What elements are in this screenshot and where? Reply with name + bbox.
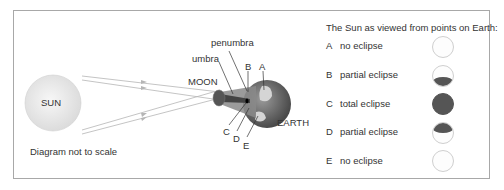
umbra-label: umbra bbox=[192, 54, 219, 64]
sun-disc-no-eclipse bbox=[432, 36, 454, 58]
leader-umbra bbox=[219, 62, 233, 94]
legend-label: partial eclipse bbox=[340, 126, 398, 137]
legend-letter: A bbox=[326, 40, 340, 51]
point-c-label: C bbox=[223, 127, 230, 137]
moon-label: MOON bbox=[188, 77, 218, 87]
arrow-icon bbox=[141, 117, 147, 121]
moon-shadow bbox=[433, 77, 453, 87]
point-e-label: E bbox=[243, 141, 249, 151]
sun-disc-partial-bottom bbox=[432, 65, 454, 87]
sun-disc-no-eclipse bbox=[432, 150, 454, 172]
moon bbox=[213, 90, 225, 106]
legend-row-c: Ctotal eclipse bbox=[326, 98, 390, 112]
legend-letter: C bbox=[326, 98, 340, 109]
legend-letter: B bbox=[326, 69, 340, 80]
moon-shadow bbox=[433, 123, 453, 133]
legend-label: no eclipse bbox=[340, 40, 383, 51]
sun-label: SUN bbox=[41, 98, 61, 108]
sun-disc-partial-top bbox=[432, 122, 454, 144]
ray-lower-1 bbox=[82, 90, 220, 130]
penumbra-label: penumbra bbox=[211, 38, 254, 48]
ray-lower-2 bbox=[82, 98, 220, 134]
earth-label: EARTH bbox=[277, 118, 309, 128]
legend-label: partial eclipse bbox=[340, 69, 398, 80]
legend-title: The Sun as viewed from points on Earth: bbox=[326, 22, 498, 33]
legend-letter: D bbox=[326, 126, 340, 137]
point-a-label: A bbox=[259, 62, 265, 72]
arrow-icon bbox=[141, 113, 147, 117]
total-eclipse-spot bbox=[245, 99, 248, 104]
legend-label: no eclipse bbox=[340, 155, 383, 166]
legend-letter: E bbox=[326, 155, 340, 166]
point-d-label: D bbox=[233, 134, 240, 144]
ray-arrows bbox=[141, 80, 147, 121]
point-b-label: B bbox=[245, 62, 251, 72]
legend-row-b: Bpartial eclipse bbox=[326, 69, 398, 83]
scale-note: Diagram not to scale bbox=[30, 147, 117, 157]
legend-row-a: Ano eclipse bbox=[326, 40, 383, 54]
sun-disc-total bbox=[432, 93, 454, 115]
legend-label: total eclipse bbox=[340, 98, 390, 109]
legend-row-e: Eno eclipse bbox=[326, 155, 383, 169]
legend-row-d: Dpartial eclipse bbox=[326, 126, 398, 140]
